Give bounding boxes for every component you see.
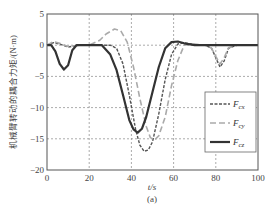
x-axis-label: t/s — [148, 182, 157, 192]
x-tick-label: 80 — [211, 173, 221, 183]
y-tick-label: −20 — [30, 165, 45, 175]
y-tick-label: 5 — [40, 9, 45, 19]
x-tick-label: 0 — [45, 173, 50, 183]
y-tick-label: −10 — [30, 103, 45, 113]
figure-caption: (a) — [147, 194, 157, 204]
y-axis-ticks: 50−5−10−15−20 — [30, 9, 45, 175]
legend: FcxFcyFcz — [205, 92, 256, 152]
x-tick-label: 60 — [169, 173, 179, 183]
y-tick-label: 0 — [40, 40, 45, 50]
x-tick-label: 100 — [251, 173, 265, 183]
x-tick-label: 40 — [127, 173, 137, 183]
y-tick-label: −5 — [34, 71, 44, 81]
coupling-torque-chart: 020406080100 50−5−10−15−20 t/s (a) 机械臂转动… — [0, 0, 273, 213]
y-axis-label: 机械臂转动的耦合力矩/(N·m) — [8, 35, 18, 149]
y-tick-label: −15 — [30, 134, 45, 144]
x-tick-label: 20 — [85, 173, 95, 183]
